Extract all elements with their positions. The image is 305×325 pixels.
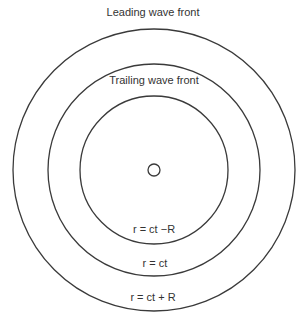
trailing-wave-front-circle [80, 96, 228, 244]
trailing-wave-front-label: Trailing wave front [109, 74, 198, 86]
inner-radius-label: r = ct −R [133, 223, 175, 235]
leading-wave-front-label: Leading wave front [107, 6, 200, 18]
outer-radius-label: r = ct + R [130, 291, 175, 303]
wave-fronts-diagram [0, 0, 305, 325]
source-point-icon [148, 164, 160, 176]
middle-radius-label: r = ct [143, 257, 168, 269]
